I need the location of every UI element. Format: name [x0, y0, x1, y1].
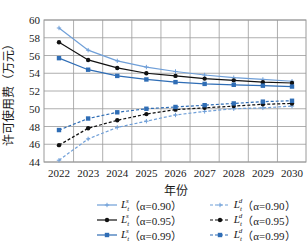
y-tick-label: 44: [29, 156, 41, 168]
legend-symbol: Lts: [121, 227, 129, 243]
x-tick-label: 2023: [77, 167, 100, 179]
legend-label: （α=0.90）: [129, 197, 182, 213]
legend-symbol: Ltd: [234, 212, 243, 228]
legend-swatch-icon: [209, 230, 231, 240]
legend-row: Lts（α=0.90）Ltd（α=0.90）: [96, 197, 306, 212]
legend-label: （α=0.95）: [242, 212, 295, 228]
x-tick-label: 2028: [223, 167, 246, 179]
y-tick-label: 48: [29, 121, 41, 133]
x-tick-label: 2026: [165, 167, 188, 179]
legend-swatch-icon: [96, 230, 118, 240]
series-s-0.95: [57, 40, 294, 85]
legend-symbol: Lts: [121, 212, 129, 228]
series-d-0.90: [57, 104, 294, 163]
legend: Lts（α=0.90）Ltd（α=0.90）Lts（α=0.95）Ltd（α=0…: [96, 197, 306, 242]
x-tick-label: 2030: [281, 167, 304, 179]
y-tick-label: 46: [29, 138, 41, 150]
legend-row: Lts（α=0.95）Ltd（α=0.95）: [96, 212, 306, 227]
y-tick-label: 58: [29, 32, 41, 44]
x-tick-label: 2027: [194, 167, 217, 179]
x-axis-ticks: 202220232024202520262027202820292030: [48, 167, 304, 179]
legend-row: Lts（α=0.99）Ltd（α=0.99）: [96, 227, 306, 242]
legend-symbol: Lts: [121, 197, 129, 213]
y-tick-label: 50: [29, 103, 41, 115]
legend-swatch-icon: [96, 200, 118, 210]
y-tick-label: 60: [29, 14, 41, 26]
legend-label: （α=0.95）: [129, 212, 182, 228]
x-tick-label: 2022: [48, 167, 70, 179]
legend-item: Lts（α=0.90）: [96, 197, 209, 213]
legend-label: （α=0.99）: [129, 227, 182, 243]
y-tick-label: 54: [29, 67, 41, 79]
legend-item: Ltd（α=0.90）: [209, 197, 306, 213]
legend-item: Ltd（α=0.95）: [209, 212, 306, 228]
x-tick-label: 2025: [135, 167, 158, 179]
y-axis-label: 许可使用费（万元）: [1, 38, 16, 146]
x-tick-label: 2024: [106, 167, 129, 179]
legend-label: （α=0.99）: [242, 227, 295, 243]
legend-item: Ltd（α=0.99）: [209, 227, 306, 243]
y-tick-label: 56: [29, 50, 41, 62]
y-axis-ticks: 444648505254565860: [29, 14, 41, 168]
legend-symbol: Ltd: [234, 227, 243, 243]
series-lines: [57, 26, 294, 163]
legend-label: （α=0.90）: [242, 197, 295, 213]
legend-item: Lts（α=0.95）: [96, 212, 209, 228]
legend-swatch-icon: [209, 215, 231, 225]
legend-item: Lts（α=0.99）: [96, 227, 209, 243]
grid-lines: [44, 20, 306, 162]
x-tick-label: 2029: [252, 167, 275, 179]
y-tick-label: 52: [29, 85, 40, 97]
legend-swatch-icon: [209, 200, 231, 210]
legend-swatch-icon: [96, 215, 118, 225]
legend-symbol: Ltd: [234, 197, 243, 213]
